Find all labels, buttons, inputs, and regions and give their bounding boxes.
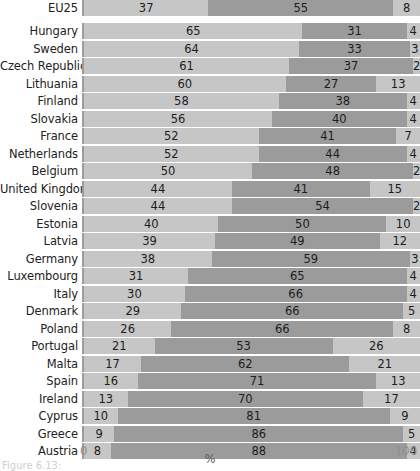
bar-segment-3: 26 <box>333 338 420 354</box>
stacked-bar: 30664 <box>84 286 420 302</box>
bar-segment-3: 4 <box>407 111 420 127</box>
bar-segment-1: 30 <box>84 286 185 302</box>
stacked-bar: 44542 <box>84 198 420 214</box>
bar-segment-1: 58 <box>84 93 279 109</box>
bar-segment-2: 81 <box>118 408 390 424</box>
bar-segment-2: 66 <box>181 303 403 319</box>
bar-segment-1: 52 <box>84 146 259 162</box>
stacked-bar: 167113 <box>84 373 420 389</box>
bar-segment-2: 27 <box>286 76 377 92</box>
bar-segment-1: 37 <box>84 0 208 16</box>
chart-row: United Kingdom444115 <box>0 181 420 197</box>
bar-segment-2: 54 <box>232 198 413 214</box>
bar-segment-2: 71 <box>138 373 377 389</box>
category-label: United Kingdom <box>0 181 82 197</box>
bar-segment-1: 31 <box>84 268 188 284</box>
category-label: France <box>0 128 82 144</box>
stacked-bar: 50482 <box>84 163 420 179</box>
stacked-bar: 26668 <box>84 321 420 337</box>
category-label: Sweden <box>0 41 82 57</box>
category-label: Ireland <box>0 391 82 407</box>
bar-segment-2: 37 <box>289 58 413 74</box>
stacked-bar: 56404 <box>84 111 420 127</box>
chart-row: Poland26668 <box>0 321 420 337</box>
stacked-bar: 137017 <box>84 391 420 407</box>
bar-segment-2: 86 <box>114 426 403 442</box>
bar-segment-3: 7 <box>396 128 420 144</box>
bar-segment-1: 13 <box>84 391 128 407</box>
stacked-bar: 29665 <box>84 303 420 319</box>
bar-segment-3: 3 <box>410 251 420 267</box>
bar-segment-3: 4 <box>407 268 420 284</box>
bar-segment-1: 56 <box>84 111 272 127</box>
bar-segment-1: 26 <box>84 321 171 337</box>
bar-segment-3: 2 <box>413 198 420 214</box>
stacked-bar: 444115 <box>84 181 420 197</box>
category-label: Cyprus <box>0 408 82 424</box>
chart-row: Italy30664 <box>0 286 420 302</box>
bar-segment-3: 2 <box>413 58 420 74</box>
bar-segment-2: 53 <box>155 338 333 354</box>
bar-segment-1: 10 <box>84 408 118 424</box>
bar-segment-3: 8 <box>393 0 420 16</box>
bar-segment-1: 38 <box>84 251 212 267</box>
bar-segment-2: 50 <box>218 216 386 232</box>
stacked-bar: 38593 <box>84 251 420 267</box>
category-label: Estonia <box>0 216 82 232</box>
bar-segment-3: 17 <box>363 391 420 407</box>
bar-segment-2: 48 <box>252 163 413 179</box>
chart-row: Estonia405010 <box>0 216 420 232</box>
chart-row: Belgium50482 <box>0 163 420 179</box>
stacked-bar: 405010 <box>84 216 420 232</box>
bar-segment-2: 40 <box>272 111 406 127</box>
bar-segment-1: 9 <box>84 426 114 442</box>
bar-segment-3: 13 <box>376 373 420 389</box>
chart-row: Latvia394912 <box>0 233 420 249</box>
bar-segment-3: 9 <box>390 408 420 424</box>
bar-segment-2: 38 <box>279 93 407 109</box>
figure-caption: Figure 6.13: <box>2 460 61 471</box>
bar-segment-3: 4 <box>407 286 420 302</box>
bar-segment-3: 21 <box>349 356 420 372</box>
bar-segment-1: 64 <box>84 41 299 57</box>
chart-row: EU2537558 <box>0 0 420 16</box>
chart-row: Malta176221 <box>0 356 420 372</box>
category-label: Italy <box>0 286 82 302</box>
bar-segment-2: 65 <box>188 268 406 284</box>
chart-row: Luxembourg31654 <box>0 268 420 284</box>
x-axis-title: % <box>0 452 420 466</box>
chart-row: Greece9865 <box>0 426 420 442</box>
category-label: EU25 <box>0 0 82 16</box>
bar-segment-1: 50 <box>84 163 252 179</box>
stacked-bar: 52417 <box>84 128 420 144</box>
bar-segment-2: 66 <box>171 321 393 337</box>
bar-segment-3: 4 <box>407 93 420 109</box>
category-label: Malta <box>0 356 82 372</box>
bar-segment-2: 49 <box>215 233 380 249</box>
bar-segment-1: 29 <box>84 303 181 319</box>
stacked-bar: 215326 <box>84 338 420 354</box>
bar-segment-2: 41 <box>232 181 370 197</box>
bar-segment-3: 2 <box>413 163 420 179</box>
chart-row: Hungary65314 <box>0 23 420 39</box>
stacked-bar: 9865 <box>84 426 420 442</box>
bar-segment-2: 70 <box>128 391 363 407</box>
stacked-bar: 602713 <box>84 76 420 92</box>
category-label: Greece <box>0 426 82 442</box>
stacked-bar: 31654 <box>84 268 420 284</box>
category-label: Finland <box>0 93 82 109</box>
chart-row: Spain167113 <box>0 373 420 389</box>
bar-segment-3: 8 <box>393 321 420 337</box>
bar-segment-3: 4 <box>407 146 420 162</box>
category-label: Germany <box>0 251 82 267</box>
chart-row: Finland58384 <box>0 93 420 109</box>
bar-segment-1: 44 <box>84 198 232 214</box>
category-label: Slovakia <box>0 111 82 127</box>
category-label: Poland <box>0 321 82 337</box>
bar-segment-1: 52 <box>84 128 259 144</box>
stacked-bar: 64333 <box>84 41 420 57</box>
bar-segment-1: 44 <box>84 181 232 197</box>
stacked-bar: 58384 <box>84 93 420 109</box>
bar-segment-1: 16 <box>84 373 138 389</box>
